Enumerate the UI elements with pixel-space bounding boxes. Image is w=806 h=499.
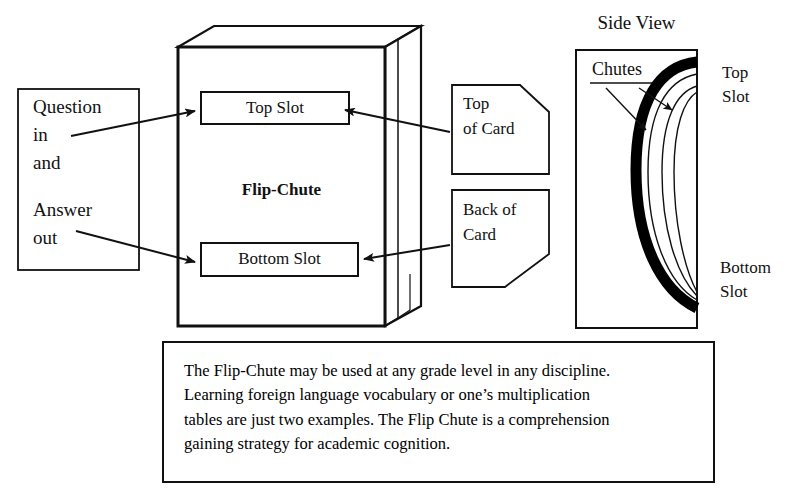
back-of-card-line-2: Card: [463, 225, 496, 245]
side-top-slot-line-1: Top: [722, 63, 748, 83]
question-line-3: and: [33, 152, 60, 174]
side-top-slot-line-2: Slot: [722, 87, 749, 107]
flip-chute-label: Flip-Chute: [178, 180, 385, 200]
top-slot-label: Top Slot: [201, 98, 349, 118]
flip-chute-diagram: Top Slot Flip-Chute Bottom Slot Question…: [0, 0, 806, 499]
caption-line-1: The Flip-Chute may be used at any grade …: [184, 359, 704, 383]
chutes-label: Chutes: [592, 59, 642, 80]
top-of-card-line-1: Top: [463, 94, 489, 114]
caption-line-2: Learning foreign language vocabulary or …: [184, 383, 704, 407]
top-of-card-line-2: of Card: [463, 119, 514, 139]
caption-text: The Flip-Chute may be used at any grade …: [184, 359, 704, 456]
back-of-card-line-1: Back of: [463, 200, 516, 220]
answer-line-2: out: [33, 227, 57, 249]
caption-line-4: gaining strategy for academic cognition.: [184, 432, 704, 456]
side-view-title: Side View: [576, 12, 697, 34]
side-bottom-slot-line-1: Bottom: [720, 258, 771, 278]
question-line-2: in: [33, 124, 48, 146]
question-line-1: Question: [33, 96, 102, 118]
side-bottom-slot-line-2: Slot: [720, 282, 747, 302]
answer-line-1: Answer: [33, 199, 92, 221]
bottom-slot-label: Bottom Slot: [201, 249, 358, 269]
flip-chute-box-3d: [178, 26, 421, 326]
caption-box: The Flip-Chute may be used at any grade …: [162, 341, 715, 483]
caption-line-3: tables are just two examples. The Flip C…: [184, 408, 704, 432]
